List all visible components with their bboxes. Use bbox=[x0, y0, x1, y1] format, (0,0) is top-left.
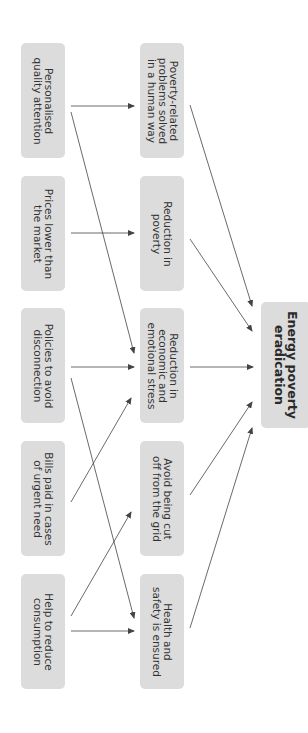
node-label: Help to reduce consumption bbox=[32, 576, 54, 688]
node-personalised-quality-attention: Personalised quality attention bbox=[21, 43, 65, 158]
arrow-policies-to-health bbox=[71, 378, 134, 618]
node-reduction-in-poverty: Reduction in poverty bbox=[140, 176, 184, 291]
arrow-avoid-cut-off-to-eradication bbox=[190, 402, 252, 495]
node-bills-paid-urgent-need: Bills paid in cases of urgent need bbox=[21, 441, 65, 556]
node-reduction-economic-emotional-stress: Reduction in economic and emotional stre… bbox=[140, 308, 184, 423]
node-policies-avoid-disconnection: Policies to avoid disconnection bbox=[21, 308, 65, 423]
node-label: Reduction in economic and emotional stre… bbox=[146, 310, 179, 422]
node-prices-lower-than-market: Prices lower than the market bbox=[21, 176, 65, 291]
node-label: Energy poverty eradication bbox=[273, 303, 299, 427]
diagram-canvas: Personalised quality attention Prices lo… bbox=[0, 0, 308, 733]
node-avoid-cut-off-grid: Avoid being cut off from the grid bbox=[140, 441, 184, 556]
node-poverty-problems-solved: Poverty-related problems solved in a hum… bbox=[140, 43, 184, 158]
arrow-help-to-avoid-cut-off bbox=[71, 512, 131, 616]
node-label: Personalised quality attention bbox=[32, 45, 54, 157]
arrow-health-to-eradication bbox=[190, 428, 252, 628]
arrow-poverty-problems-to-eradication bbox=[190, 105, 252, 306]
node-label: Poverty-related problems solved in a hum… bbox=[146, 45, 179, 157]
node-energy-poverty-eradication: Energy poverty eradication bbox=[261, 302, 308, 428]
node-label: Bills paid in cases of urgent need bbox=[32, 443, 54, 555]
node-label: Reduction in poverty bbox=[151, 178, 173, 290]
node-label: Health and safety is ensured bbox=[151, 576, 173, 688]
arrow-personalised-to-stress bbox=[71, 112, 134, 353]
node-help-reduce-consumption: Help to reduce consumption bbox=[21, 574, 65, 689]
node-label: Prices lower than the market bbox=[32, 178, 54, 290]
node-label: Policies to avoid disconnection bbox=[32, 310, 54, 422]
node-health-safety-ensured: Health and safety is ensured bbox=[140, 574, 184, 689]
arrow-bills-to-stress bbox=[71, 398, 131, 502]
arrow-reduction-poverty-to-eradication bbox=[190, 239, 252, 331]
node-label: Avoid being cut off from the grid bbox=[151, 443, 173, 555]
